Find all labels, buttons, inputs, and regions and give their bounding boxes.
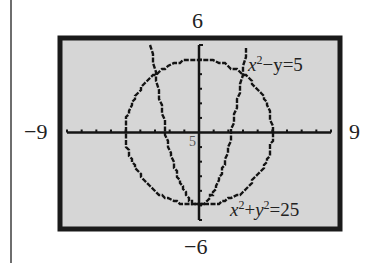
parabola-equation-label: x2−y=5	[247, 53, 303, 75]
origin-note-label: 5	[189, 134, 196, 149]
calculator-graph-screen: x2−y=5 x2+y2=25 5	[0, 0, 373, 263]
